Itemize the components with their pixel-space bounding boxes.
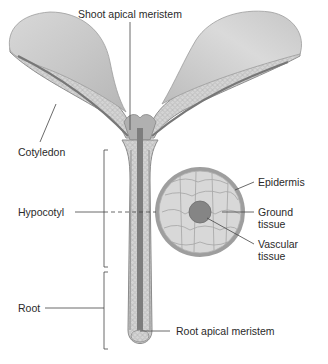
right-cotyledon <box>146 11 302 138</box>
label-ground-tissue-2: tissue <box>258 218 285 230</box>
label-root-apical-meristem: Root apical meristem <box>176 325 275 337</box>
label-hypocotyl: Hypocotyl <box>18 206 64 218</box>
label-vascular-tissue-1: Vascular <box>258 238 298 250</box>
label-vascular-tissue-2: tissue <box>258 250 285 262</box>
label-ground-tissue-1: Ground <box>258 206 293 218</box>
left-cotyledon <box>9 12 134 138</box>
label-cotyledon: Cotyledon <box>18 146 65 158</box>
axis-stem-root <box>122 128 158 344</box>
label-epidermis: Epidermis <box>258 176 305 188</box>
label-shoot-apical-meristem: Shoot apical meristem <box>78 8 182 20</box>
vascular-core <box>137 128 143 333</box>
label-root: Root <box>18 302 40 314</box>
